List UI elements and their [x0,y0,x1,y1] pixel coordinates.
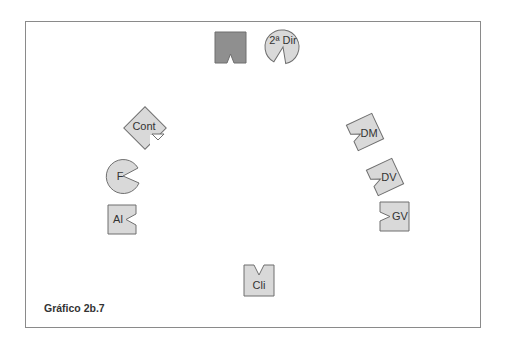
seat-f-label: F [117,170,124,182]
seat-dm-label: DM [360,127,377,139]
seat-cli-label: Cli [253,279,266,291]
seat-al: Al [108,205,136,234]
seat-cont-label: Cont [132,120,155,132]
seat-cli: Cli [244,265,274,296]
seat-cont-notch [150,134,164,147]
seating-diagram: 2ª Dir Cont F Al DM DV GV Cli [0,0,508,346]
seat-2dir: 2ª Dir [263,28,301,65]
seat-dv-label: DV [381,171,397,183]
figure-caption: Gráfico 2b.7 [44,302,105,314]
seat-gv-label: GV [392,210,409,222]
seat-al-label: Al [113,213,123,225]
seat-gv: GV [380,202,409,231]
seat-2dir-label: 2ª Dir [269,34,297,46]
seat-presidency [215,32,246,63]
seat-f: F [106,160,139,194]
